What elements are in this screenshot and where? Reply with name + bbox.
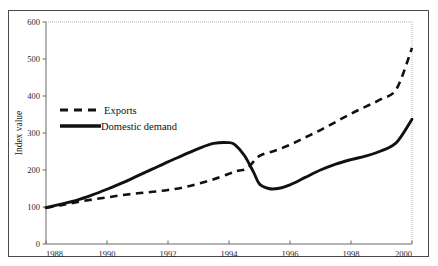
y-axis-ticks: 0100200300400500600 xyxy=(27,17,46,249)
x-tick-label: 1988 xyxy=(46,249,63,259)
legend-label-exports: Exports xyxy=(104,105,137,116)
x-tick-label: 1990 xyxy=(99,249,116,259)
y-axis-title: Index value xyxy=(14,111,24,156)
figure-root: 0100200300400500600 19881990199219941996… xyxy=(0,0,438,266)
x-tick-label: 1998 xyxy=(343,249,360,259)
y-tick-label: 0 xyxy=(36,239,40,249)
y-tick-label: 300 xyxy=(27,128,40,138)
x-axis-ticks: 1988199019921994199619982000 xyxy=(46,241,412,260)
y-tick-label: 500 xyxy=(27,54,40,64)
legend-label-domestic-demand: Domestic demand xyxy=(101,121,178,132)
x-tick-label: 1992 xyxy=(160,249,177,259)
chart-legend: Exports Domestic demand xyxy=(60,105,178,132)
x-tick-label: 1996 xyxy=(282,249,299,259)
series-line-domestic-demand xyxy=(46,119,412,207)
y-tick-label: 400 xyxy=(27,91,40,101)
y-tick-label: 600 xyxy=(27,17,40,27)
x-tick-label: 1994 xyxy=(221,249,239,259)
y-tick-label: 200 xyxy=(27,165,40,175)
line-chart: 0100200300400500600 19881990199219941996… xyxy=(0,0,438,266)
plot-frame xyxy=(46,22,412,244)
y-tick-label: 100 xyxy=(27,202,40,212)
x-tick-label: 2000 xyxy=(395,249,412,259)
